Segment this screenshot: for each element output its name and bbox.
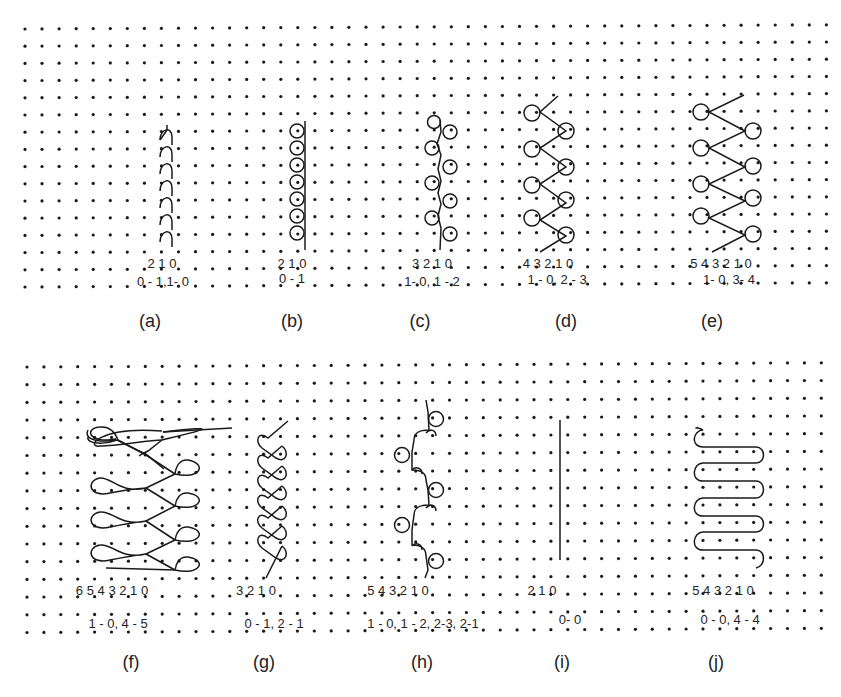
stitch-count-digits: 2 1 0 [528, 583, 557, 598]
stitch-notation: 0 - 0, 4 - 4 [700, 612, 759, 627]
stitch-count-digits: 4 3 2 1 0 [523, 256, 574, 271]
panel-c: 3 2 1 01- 0, 1 - 2(c) [404, 256, 460, 331]
panel-caption: (c) [410, 311, 431, 331]
panel-g: 3 2 1 00 - 1, 2 - 1(g) [236, 583, 304, 672]
panel-f-stitch-drawing [87, 427, 232, 571]
stitch-notation: 0 - 1, 2 - 1 [244, 616, 303, 631]
stitch-notation: 0- 0 [559, 612, 581, 627]
panel-caption: (f) [123, 652, 140, 672]
panel-b-stitch-drawing [290, 121, 305, 250]
panel-b: 2 1 00 - 1(b) [278, 256, 307, 331]
stitch-notation: 1- 0, 3- 4 [703, 272, 755, 287]
stitch-notation: 1 - 0, 2 - 3 [527, 272, 586, 287]
stitch-count-digits: 5 4 3 2 1 0 [692, 583, 753, 598]
panel-h-stitch-drawing [395, 400, 444, 578]
stitch-count-digits: 5 4 3 2 1 0 [367, 583, 428, 598]
stitch-count-digits: 6 5 4 3 2 1 0 [76, 583, 148, 598]
panel-caption: (h) [411, 652, 433, 672]
stitch-notation-figure: 2 1 00 - 1,1- 0(a)2 1 00 - 1(b)3 2 1 01-… [0, 0, 841, 697]
panel-f: 6 5 4 3 2 1 01 - 0, 4 - 5(f) [76, 583, 148, 672]
panel-caption: (a) [139, 311, 161, 331]
panel-caption: (d) [555, 311, 577, 331]
panel-caption: (i) [554, 652, 570, 672]
stitch-notation: 1 - 0, 1 - 2, 2-3, 2-1 [367, 616, 478, 631]
stitch-count-digits: 2 1 0 [148, 256, 177, 271]
panel-h: 5 4 3 2 1 01 - 0, 1 - 2, 2-3, 2-1(h) [367, 583, 478, 672]
panel-caption: (j) [708, 652, 724, 672]
panel-caption: (e) [701, 311, 723, 331]
top-grid [23, 23, 828, 288]
panel-e: 5 4 3 2 1 01- 0, 3- 4(e) [690, 256, 755, 331]
panel-e-stitch-drawing [693, 95, 761, 252]
stitch-notation: 1 - 0, 4 - 5 [88, 616, 147, 631]
panel-caption: (b) [281, 311, 303, 331]
stitch-count-digits: 3 2 1 0 [236, 583, 276, 598]
panel-caption: (g) [253, 652, 275, 672]
stitch-count-digits: 2 1 0 [278, 256, 307, 271]
panel-a-stitch-drawing [160, 125, 172, 247]
stitch-notation: 1- 0, 1 - 2 [404, 274, 460, 289]
panel-g-stitch-drawing [258, 421, 288, 578]
panel-a: 2 1 00 - 1,1- 0(a) [137, 256, 189, 331]
stitch-notation: 0 - 1,1- 0 [137, 274, 189, 289]
stitch-count-digits: 3 2 1 0 [412, 256, 452, 271]
panel-j-stitch-drawing [694, 427, 763, 568]
stitch-count-digits: 5 4 3 2 1 0 [690, 256, 751, 271]
panel-d: 4 3 2 1 01 - 0, 2 - 3(d) [523, 256, 587, 331]
stitch-notation: 0 - 1 [279, 271, 305, 286]
panel-i: 2 1 00- 0(i) [528, 583, 582, 672]
panel-d-stitch-drawing [524, 96, 574, 252]
